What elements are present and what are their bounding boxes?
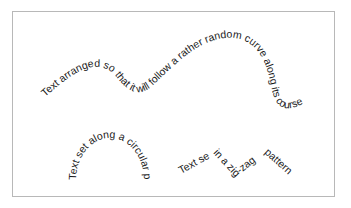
text-on-path-figure: Text arranged so that it will follow a r…	[0, 0, 351, 208]
zigzag-segment-1: Text set	[0, 0, 211, 176]
zigzag-segment-1-textpath: Text set	[0, 0, 211, 176]
wavy-curve-textpath: Text arranged so that it will follow a r…	[38, 28, 304, 111]
zigzag-segment-4-textpath: pattern	[263, 146, 296, 177]
wavy-curve-text: Text arranged so that it will follow a r…	[38, 28, 304, 111]
zigzag-segment-4: pattern	[263, 146, 296, 177]
